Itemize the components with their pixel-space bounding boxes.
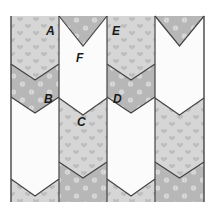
- quilt-strip-3: [107, 16, 155, 202]
- quilt-strip-4: [155, 16, 204, 202]
- patch-label-b: B: [44, 93, 53, 105]
- quilt-strip-1: [11, 16, 59, 202]
- quilt-diagram: [0, 0, 216, 223]
- quilt-strip-2: [59, 16, 107, 202]
- patch-label-f: F: [76, 52, 83, 64]
- patch-label-c: C: [77, 116, 86, 128]
- patch-label-d: D: [113, 93, 122, 105]
- patch-label-e: E: [112, 25, 120, 37]
- patch-label-a: A: [46, 25, 55, 37]
